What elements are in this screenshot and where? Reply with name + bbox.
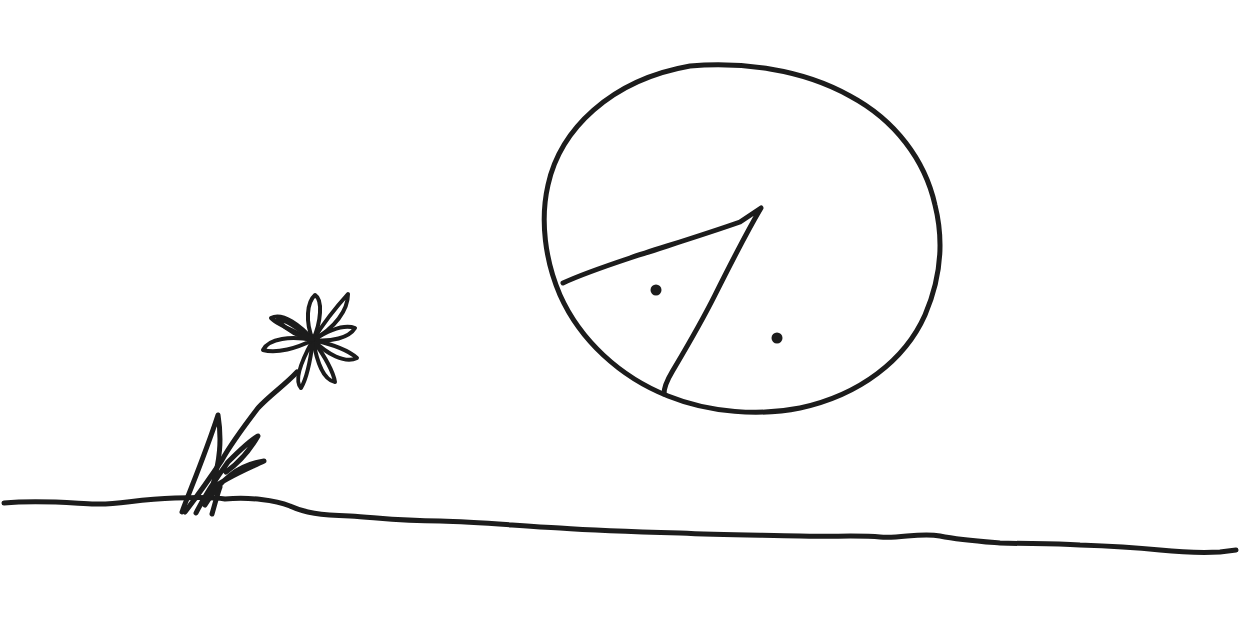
flower-petals (263, 294, 357, 388)
sketch-canvas (0, 0, 1243, 625)
wedge (563, 208, 761, 394)
flower-stem (185, 372, 297, 512)
dot-left (651, 285, 662, 296)
circle-drawing (544, 65, 940, 412)
dot-right (772, 333, 783, 344)
flower (182, 294, 357, 514)
